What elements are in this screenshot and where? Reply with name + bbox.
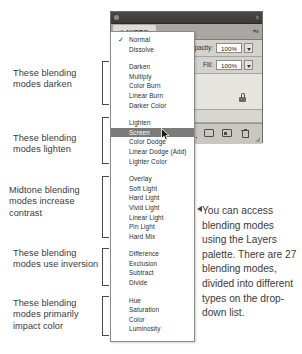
dropdown-item-label: Saturation bbox=[129, 306, 159, 313]
dropdown-item-label: Pin Light bbox=[129, 223, 155, 230]
dropdown-item-label: Hard Light bbox=[129, 194, 160, 201]
dropdown-item-label: Divide bbox=[129, 279, 147, 286]
opacity-dropdown-arrow-icon[interactable] bbox=[244, 43, 253, 53]
dropdown-item-label: Exclusion bbox=[129, 260, 157, 267]
panel-resize-grip[interactable] bbox=[255, 137, 260, 142]
dropdown-item-soft-light[interactable]: Soft Light bbox=[111, 184, 194, 194]
lock-icon[interactable] bbox=[239, 93, 246, 102]
bracket-inversion bbox=[102, 248, 109, 286]
dropdown-item-label: Linear Burn bbox=[129, 92, 163, 99]
dropdown-item-label: Color Burn bbox=[129, 82, 161, 89]
checkmark-icon: ✓ bbox=[118, 35, 124, 45]
bracket-lighten bbox=[102, 117, 109, 164]
dropdown-item-darker-color[interactable]: Darker Color bbox=[111, 101, 194, 111]
fill-input[interactable]: 100% bbox=[216, 60, 242, 70]
dropdown-item-dissolve[interactable]: Dissolve bbox=[111, 45, 194, 55]
dropdown-item-label: Hue bbox=[129, 297, 141, 304]
dropdown-item-hard-mix[interactable]: Hard Mix bbox=[111, 232, 194, 242]
dropdown-item-label: Dissolve bbox=[129, 46, 154, 53]
fill-dropdown-arrow-icon[interactable] bbox=[244, 60, 253, 70]
dropdown-item-label: Linear Dodge (Add) bbox=[129, 148, 187, 155]
dropdown-item-divide[interactable]: Divide bbox=[111, 278, 194, 288]
annotation-inversion-group: These blending modes use inversion bbox=[13, 248, 99, 271]
annotation-midtone-group: Midtone blending modes increase contrast bbox=[9, 185, 102, 219]
dropdown-item-color[interactable]: Color bbox=[111, 315, 194, 325]
dropdown-item-subtract[interactable]: Subtract bbox=[111, 268, 194, 278]
dropdown-separator bbox=[111, 166, 194, 174]
dropdown-item-label: Darken bbox=[129, 63, 150, 70]
dropdown-item-label: Hard Mix bbox=[129, 233, 155, 240]
dropdown-item-difference[interactable]: Difference bbox=[111, 249, 194, 259]
dropdown-item-label: Multiply bbox=[129, 73, 151, 80]
dropdown-item-label: Lighter Color bbox=[129, 158, 167, 165]
dropdown-item-label: Vivid Light bbox=[129, 204, 159, 211]
annotation-color-group: These blending modes primarily impact co… bbox=[13, 298, 103, 332]
mouse-cursor-icon bbox=[161, 128, 170, 141]
dropdown-item-label: Darker Color bbox=[129, 102, 166, 109]
panel-titlebar-menu-icon[interactable]: ≡ bbox=[256, 14, 259, 21]
bracket-darken bbox=[102, 61, 109, 105]
trash-icon[interactable] bbox=[241, 129, 249, 138]
dropdown-item-label: Overlay bbox=[129, 175, 152, 182]
dropdown-item-color-dodge[interactable]: Color Dodge bbox=[111, 137, 194, 147]
layer-mask-icon[interactable] bbox=[204, 129, 214, 137]
dropdown-item-luminosity[interactable]: Luminosity bbox=[111, 324, 194, 334]
dropdown-separator bbox=[111, 241, 194, 249]
dropdown-item-label: Soft Light bbox=[129, 185, 157, 192]
dropdown-item-screen[interactable]: Screen bbox=[111, 128, 194, 138]
dropdown-item-lighter-color[interactable]: Lighter Color bbox=[111, 157, 194, 167]
dropdown-item-label: Color bbox=[129, 316, 145, 323]
dropdown-item-multiply[interactable]: Multiply bbox=[111, 72, 194, 82]
dropdown-item-label: Subtract bbox=[129, 269, 154, 276]
opacity-input[interactable]: 100% bbox=[216, 43, 242, 53]
dropdown-separator bbox=[111, 54, 194, 62]
panel-titlebar[interactable]: ≡ bbox=[111, 12, 262, 24]
dropdown-item-color-burn[interactable]: Color Burn bbox=[111, 81, 194, 91]
dropdown-item-label: Lighten bbox=[129, 119, 151, 126]
blend-mode-dropdown[interactable]: ✓ Normal Dissolve Darken Multiply Color … bbox=[110, 31, 195, 342]
dropdown-item-hue[interactable]: Hue bbox=[111, 296, 194, 306]
dropdown-item-vivid-light[interactable]: Vivid Light bbox=[111, 203, 194, 213]
dropdown-item-darken[interactable]: Darken bbox=[111, 62, 194, 72]
dropdown-item-normal[interactable]: ✓ Normal bbox=[111, 35, 194, 45]
annotation-lighten-group: These blending modes lighten bbox=[13, 133, 99, 156]
dropdown-item-label: Linear Light bbox=[129, 214, 164, 221]
dropdown-item-hard-light[interactable]: Hard Light bbox=[111, 193, 194, 203]
dropdown-item-saturation[interactable]: Saturation bbox=[111, 305, 194, 315]
dropdown-item-overlay[interactable]: Overlay bbox=[111, 174, 194, 184]
dropdown-item-lighten[interactable]: Lighten bbox=[111, 118, 194, 128]
dropdown-separator bbox=[111, 110, 194, 118]
dropdown-item-label: Screen bbox=[129, 129, 150, 136]
caption-text: You can access blending modes using the … bbox=[202, 204, 300, 321]
dropdown-item-linear-dodge[interactable]: Linear Dodge (Add) bbox=[111, 147, 194, 157]
dropdown-item-pin-light[interactable]: Pin Light bbox=[111, 222, 194, 232]
bracket-midtone bbox=[102, 176, 109, 238]
bracket-color bbox=[102, 296, 109, 336]
dropdown-item-linear-light[interactable]: Linear Light bbox=[111, 213, 194, 223]
dropdown-item-label: Normal bbox=[129, 36, 150, 43]
dropdown-item-exclusion[interactable]: Exclusion bbox=[111, 259, 194, 269]
dropdown-item-label: Luminosity bbox=[129, 325, 161, 332]
fill-label: Fill: bbox=[203, 61, 213, 68]
dropdown-item-linear-burn[interactable]: Linear Burn bbox=[111, 91, 194, 101]
panel-flyout-menu-icon[interactable]: ▾≡ bbox=[253, 28, 259, 34]
dropdown-separator bbox=[111, 288, 194, 296]
dropdown-item-label: Difference bbox=[129, 250, 159, 257]
annotation-darken-group: These blending modes darken bbox=[13, 68, 99, 91]
panel-collapse-icon[interactable] bbox=[114, 15, 119, 20]
new-layer-icon[interactable] bbox=[222, 129, 232, 137]
